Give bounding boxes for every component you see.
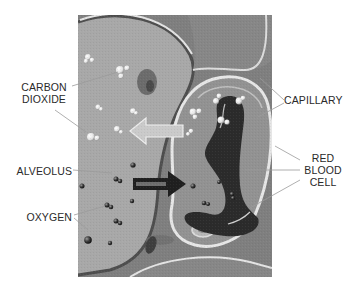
gas-exchange-diagram: CARBON DIOXIDE CAPILLARY RED BLOOD CELL … <box>0 0 356 287</box>
diagram-illustration <box>0 0 356 287</box>
label-carbon-dioxide: CARBON DIOXIDE <box>16 81 72 105</box>
tissue-block <box>78 14 272 277</box>
label-alveolus: ALVEOLUS <box>10 165 72 177</box>
label-red-blood-cell: RED BLOOD CELL <box>298 152 348 188</box>
label-capillary: CAPILLARY <box>284 94 343 106</box>
label-oxygen: OXYGEN <box>14 211 72 223</box>
